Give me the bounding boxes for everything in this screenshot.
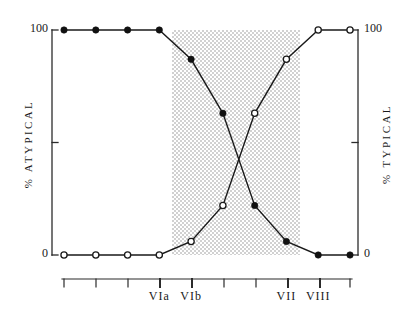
right-axis-bottom-tick-label: 0 [364, 246, 406, 261]
data-point-open [125, 252, 131, 258]
data-point-filled [124, 27, 130, 33]
shaded-transition-band [172, 30, 300, 255]
data-point-filled [188, 56, 194, 62]
data-point-open [252, 110, 258, 116]
left-axis-bottom-tick-label: 0 [6, 246, 48, 261]
chart-plot-area [0, 0, 407, 315]
data-point-open [283, 56, 289, 62]
data-point-filled [347, 252, 353, 258]
data-point-filled [93, 27, 99, 33]
x-axis [62, 279, 352, 287]
right-axis-title: % TYPICAL [380, 54, 392, 234]
left-axis-top-tick-label: 100 [6, 21, 48, 36]
x-axis-tick-label: VIII [288, 289, 348, 304]
data-point-open [61, 252, 67, 258]
data-point-open [188, 238, 194, 244]
data-point-open [220, 202, 226, 208]
data-point-open [347, 27, 353, 33]
data-point-filled [252, 202, 258, 208]
data-point-filled [156, 27, 162, 33]
left-axis [52, 30, 58, 255]
x-axis-tick-label: VIb [161, 289, 221, 304]
data-point-filled [315, 252, 321, 258]
chart-figure: 100 0 100 0 % ATYPICAL % TYPICAL VIaVIbV… [0, 0, 407, 315]
left-axis-title: % ATYPICAL [22, 54, 34, 234]
data-point-open [93, 252, 99, 258]
data-point-filled [61, 27, 67, 33]
right-axis [352, 30, 358, 255]
data-point-filled [220, 110, 226, 116]
right-axis-top-tick-label: 100 [364, 21, 406, 36]
data-point-open [315, 27, 321, 33]
data-point-open [156, 252, 162, 258]
data-point-filled [283, 238, 289, 244]
